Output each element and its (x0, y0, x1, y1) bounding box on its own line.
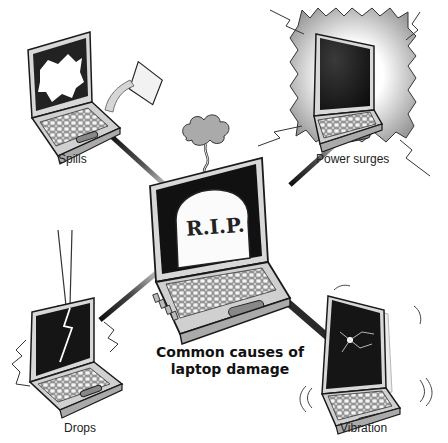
title-line2: laptop damage (145, 361, 315, 378)
diagram: Spills Power surges R.I.P. (0, 0, 448, 443)
label-spills: Spills (58, 152, 87, 166)
central-laptop-icon: R.I.P. (150, 158, 290, 344)
rip-text: R.I.P. (185, 213, 245, 241)
power-surges-laptop-icon (314, 34, 382, 152)
label-power-surges: Power surges (316, 152, 389, 166)
title-line1: Common causes of (145, 344, 315, 361)
cup-icon (105, 62, 168, 112)
diagram-title: Common causes of laptop damage (145, 344, 315, 378)
spills-laptop-icon (28, 32, 120, 164)
vibration-laptop-icon (322, 296, 400, 434)
label-drops: Drops (64, 421, 96, 435)
label-vibration: Vibration (340, 421, 387, 435)
